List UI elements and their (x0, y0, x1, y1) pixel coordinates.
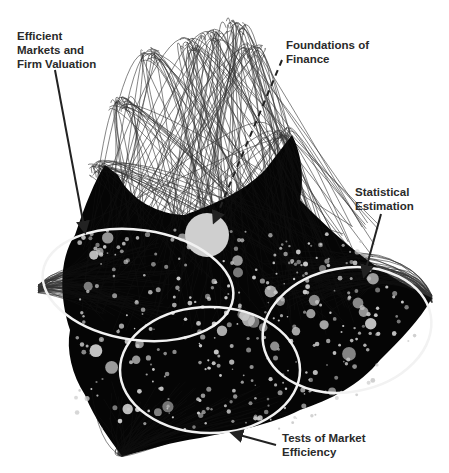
label-statistical-estimation: Statistical Estimation (355, 185, 414, 213)
hub-node (185, 213, 229, 257)
label-tests-of-market-efficiency: Tests of Market Efficiency (282, 431, 366, 459)
network-diagram: Efficient Markets and Firm Valuation Fou… (0, 0, 449, 473)
arrow-label-tests (232, 433, 276, 445)
label-foundations-of-finance: Foundations of Finance (286, 38, 369, 66)
arrow-label-efficient-markets (55, 70, 85, 232)
label-efficient-markets: Efficient Markets and Firm Valuation (17, 29, 96, 71)
